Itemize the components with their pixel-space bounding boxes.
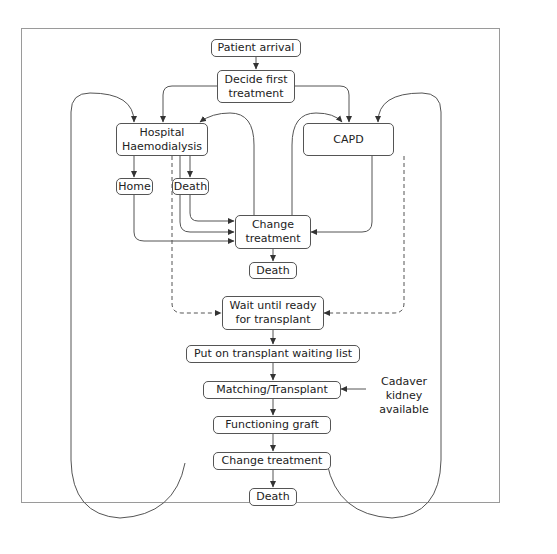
edge-capd-to-wait-dashed — [324, 156, 404, 313]
node-patient-arrival: Patient arrival — [211, 39, 301, 57]
node-death-bottom: Death — [249, 488, 297, 506]
node-waiting-list: Put on transplant waiting list — [186, 345, 360, 363]
node-home: Home — [116, 178, 153, 195]
edge-change-to-hd — [200, 113, 254, 215]
annotation-cadaver-kidney: Cadaver kidney available — [368, 375, 440, 417]
edge-lower-change-to-capd — [327, 93, 441, 518]
node-death-hd: Death — [172, 178, 209, 195]
edge-death-to-change — [190, 194, 234, 221]
edge-capd-to-change — [311, 156, 372, 232]
node-change-treatment-upper: Change treatment — [235, 215, 311, 249]
node-matching-transplant: Matching/Transplant — [203, 381, 341, 399]
node-death-mid: Death — [249, 262, 297, 279]
node-decide-first-treatment: Decide first treatment — [217, 70, 295, 103]
edge-home-to-change — [134, 194, 234, 241]
node-capd: CAPD — [303, 123, 394, 156]
node-wait-until-ready: Wait until ready for transplant — [222, 296, 324, 330]
node-change-treatment-lower: Change treatment — [213, 452, 331, 470]
node-functioning-graft: Functioning graft — [213, 416, 331, 434]
node-hospital-haemodialysis: Hospital Haemodialysis — [116, 123, 208, 156]
edge-lower-change-to-hd — [71, 93, 185, 518]
